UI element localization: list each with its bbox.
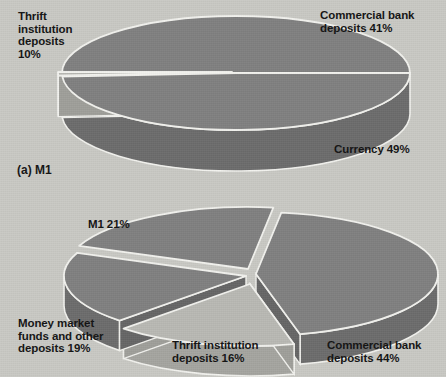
m2-money-market-label: Money market funds and other deposits 19…: [18, 317, 138, 355]
m1-currency-label: Currency 49%: [334, 143, 446, 156]
figure-page: Thrift institution deposits 10% Commerci…: [0, 0, 446, 377]
m1-commercial-bank-label: Commercial bank deposits 41%: [320, 9, 444, 34]
m1-thrift-label: Thrift institution deposits 10%: [18, 10, 114, 60]
m2-commercial-bank-label: Commercial bank deposits 44%: [327, 339, 445, 364]
m2-thrift-label: Thrift institution deposits 16%: [172, 339, 298, 364]
m2-m1-label: M1 21%: [88, 218, 158, 231]
chart-a-caption: (a) M1: [17, 164, 52, 177]
